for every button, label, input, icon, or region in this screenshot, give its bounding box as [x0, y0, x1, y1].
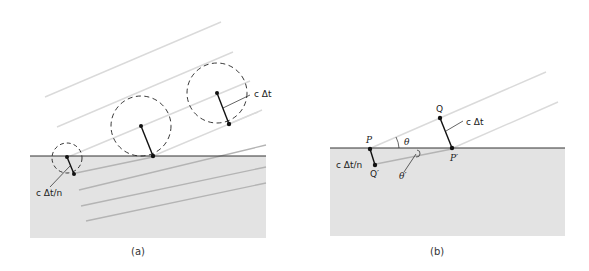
medium-region-a [30, 156, 266, 238]
segment-q-pprime [440, 118, 452, 148]
label-c-dt-b: c Δt [466, 117, 484, 127]
label-p: P [365, 135, 373, 145]
point-wavelet-2-edge [227, 122, 231, 126]
point-q-prime [373, 163, 377, 167]
label-c-dt-a: c Δt [254, 89, 272, 99]
point-wavelet-2-center [215, 91, 219, 95]
panel-b: θ θ′ P Q′ c Δt/n Q P′ c Δt (b) [330, 72, 565, 257]
radius-air-1 [141, 126, 153, 156]
medium-region-b [330, 148, 565, 236]
caption-a: (a) [131, 246, 145, 257]
label-c-dt-n-a: c Δt/n [36, 188, 62, 198]
point-wavelet-medium-origin [65, 155, 69, 159]
point-p [368, 147, 372, 151]
label-p-prime: P′ [449, 153, 458, 163]
incident-rays-a [45, 22, 262, 157]
leader-c-dt-b [446, 121, 463, 131]
label-q: Q [436, 104, 443, 114]
point-wavelet-medium-edge [72, 172, 76, 176]
point-p-prime [450, 146, 454, 150]
refraction-diagram: c Δt/n c Δt (a) θ θ′ [0, 0, 589, 271]
point-wavelet-1-edge [151, 154, 155, 158]
label-c-dt-n-b: c Δt/n [336, 160, 362, 170]
point-q [438, 116, 442, 120]
label-theta-prime: θ′ [399, 171, 406, 181]
incident-rays-b [371, 72, 558, 148]
radius-air-2 [217, 93, 229, 124]
label-theta: θ [404, 137, 410, 147]
label-q-prime: Q′ [370, 169, 379, 179]
angle-arc-theta [396, 137, 399, 148]
panel-a: c Δt/n c Δt (a) [30, 22, 272, 257]
point-wavelet-1-center [139, 124, 143, 128]
caption-b: (b) [430, 246, 444, 257]
